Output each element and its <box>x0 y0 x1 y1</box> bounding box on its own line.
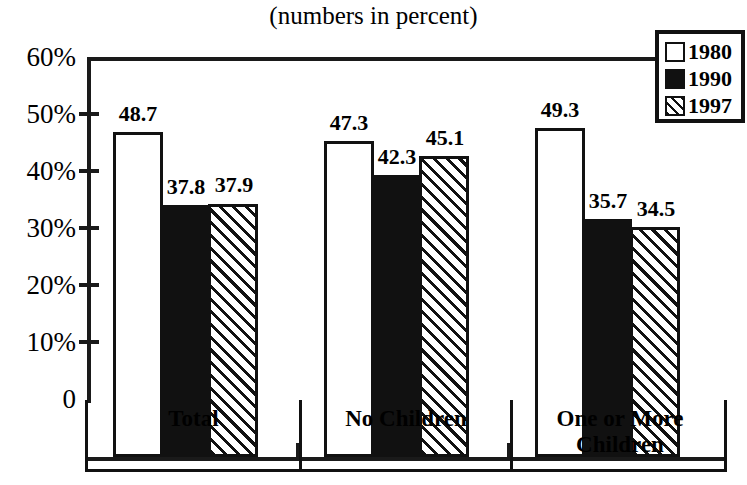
legend-item-1990[interactable]: 1990 <box>665 65 741 92</box>
bar-value-total-1980: 48.7 <box>103 103 173 125</box>
bar-value-no-children-1997: 45.1 <box>410 127 480 149</box>
bar-value-one-or-more-children-1980: 49.3 <box>525 99 595 121</box>
legend-swatch-hatched-icon <box>665 96 685 116</box>
bar-value-no-children-1980: 47.3 <box>314 112 384 134</box>
y-axis-tick-label-10: 10% <box>0 329 76 356</box>
legend-item-1997[interactable]: 1997 <box>665 92 741 119</box>
legend-label-1980: 1980 <box>688 41 732 63</box>
y-axis-tick-label-60: 60% <box>0 44 76 71</box>
category-cell-one-or-more-children[interactable]: One or More Children <box>510 400 727 469</box>
chart-title: (numbers in percent) <box>0 2 747 30</box>
y-axis-labels: 60% 50% 40% 30% 20% 10% 0 <box>0 0 80 485</box>
category-cell-total[interactable]: Total <box>88 400 299 469</box>
legend-item-1980[interactable]: 1980 <box>665 38 741 65</box>
category-label-no-children: No Children <box>345 406 467 432</box>
legend-swatch-black-icon <box>665 69 685 89</box>
x-axis-category-band: Total No Children One or More Children <box>85 400 727 472</box>
category-label-one-or-more-children: One or More Children <box>535 406 705 458</box>
category-cell-no-children[interactable]: No Children <box>299 400 510 469</box>
bar-value-one-or-more-children-1997: 34.5 <box>621 198 691 220</box>
y-axis-tick-label-20: 20% <box>0 272 76 299</box>
y-axis-tick-label-40: 40% <box>0 158 76 185</box>
category-label-total: Total <box>168 406 218 432</box>
plot-area: 48.7 37.8 37.9 47.3 42.3 45.1 49.3 35.7 … <box>87 57 725 400</box>
y-axis-tick-label-30: 30% <box>0 215 76 242</box>
legend-label-1997: 1997 <box>688 95 732 117</box>
legend-swatch-white-icon <box>665 42 685 62</box>
y-axis-tick-label-0: 0 <box>0 386 76 413</box>
bar-value-total-1997: 37.9 <box>199 174 269 196</box>
y-axis-tick-label-50: 50% <box>0 101 76 128</box>
bars-layer: 48.7 37.8 37.9 47.3 42.3 45.1 49.3 35.7 … <box>87 57 725 457</box>
legend: 1980 1990 1997 <box>655 30 745 123</box>
legend-label-1990: 1990 <box>688 68 732 90</box>
